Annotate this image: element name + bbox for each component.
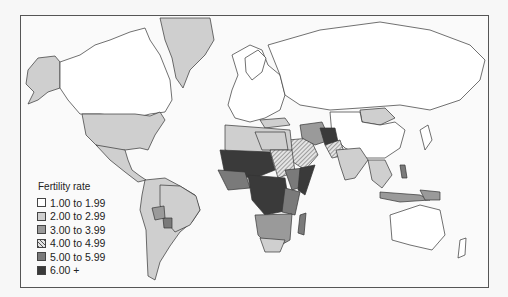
legend-label: 5.00 to 5.99 [50,251,105,263]
mexico [96,145,146,182]
legend-swatch-icon [37,239,46,248]
legend-label: 3.00 to 3.99 [50,224,105,236]
philippines [400,165,407,178]
legend-label: 1.00 to 1.99 [50,197,105,209]
south-africa [260,238,285,252]
alaska [26,56,60,104]
legend-item: 4.00 to 4.99 [37,237,127,251]
canada [60,28,172,118]
legend: Fertility rate 1.00 to 1.99 2.00 to 2.99… [37,181,127,277]
india [336,148,368,180]
legend-item: 5.00 to 5.99 [37,250,127,264]
legend-swatch-icon [37,266,46,275]
se-asia [368,160,392,188]
legend-item: 2.00 to 2.99 [37,210,127,224]
japan [420,125,432,150]
west-africa [218,170,250,190]
turkey [260,118,290,128]
somalia [298,165,315,195]
russia [268,22,485,110]
legend-label: 4.00 to 4.99 [50,237,105,249]
legend-item: 1.00 to 1.99 [37,196,127,210]
legend-title: Fertility rate [38,181,127,192]
legend-item: 6.00 + [37,264,127,278]
legend-label: 2.00 to 2.99 [50,210,105,222]
east-africa [282,188,300,215]
legend-label: 6.00 + [50,264,80,276]
legend-swatch-icon [37,212,46,221]
usa [82,112,165,152]
legend-item: 3.00 to 3.99 [37,223,127,237]
madagascar [298,213,306,235]
paraguay [163,218,172,228]
australia [390,205,445,250]
legend-swatch-icon [37,252,46,261]
new-zealand [458,238,466,258]
legend-swatch-icon [37,198,46,207]
legend-swatch-icon [37,225,46,234]
